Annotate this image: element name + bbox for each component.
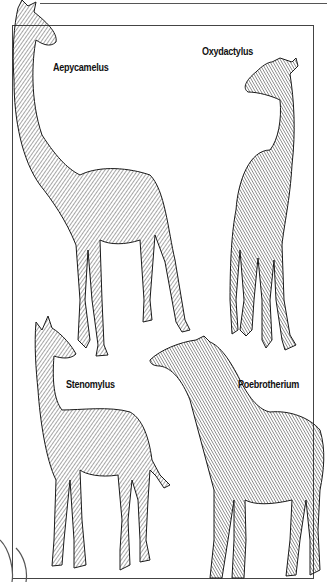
label-stenomylus: Stenomylus (66, 378, 115, 390)
label-aepycamelus: Aepycamelus (53, 61, 108, 73)
label-oxydactylus: Oxydactylus (202, 45, 253, 57)
camelid-illustration (0, 0, 327, 582)
label-poebrotherium: Poebrotherium (238, 378, 299, 390)
poebrotherium-figure (150, 336, 324, 578)
aepycamelus-figure (13, 0, 190, 356)
oxydactylus-figure (230, 58, 298, 350)
foliage-fragment (0, 540, 27, 582)
